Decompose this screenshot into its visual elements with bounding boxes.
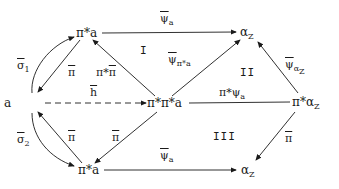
- sigma-glyph: σ: [17, 59, 25, 72]
- label-pi-bar-lower-left: π: [68, 132, 75, 143]
- node-pi-star-alpha-z: π*αZ: [292, 96, 320, 111]
- pi-glyph: π: [68, 131, 75, 144]
- label-pi-star-psi-a: π*ψa: [219, 87, 245, 101]
- pi-star-psi-glyph: π*ψ: [219, 86, 240, 99]
- region-label-ii: II: [240, 66, 255, 79]
- psi-sub: a: [240, 92, 245, 101]
- pi-glyph: π: [112, 131, 119, 144]
- node-alpha-z-bottom: αZ: [241, 164, 255, 179]
- label-h-bar: h: [90, 87, 97, 98]
- node-pi-star-pi-star-a: π*π*a: [147, 97, 182, 109]
- label-sigma-2: σ2: [17, 134, 30, 148]
- label-pi-star-pi-bar: π*π: [96, 67, 116, 78]
- psi-sub: a: [169, 155, 174, 164]
- psi-glyph: ψ: [168, 53, 177, 66]
- alpha-base: α: [240, 25, 248, 39]
- node-a: a: [4, 97, 11, 109]
- label-psi-pi-star-a: ψπ*a: [168, 54, 191, 68]
- psi-glyph: ψ: [285, 58, 294, 71]
- h-glyph: h: [90, 86, 97, 99]
- pi-star-alpha-base: π*α: [292, 95, 314, 109]
- alpha-sub: Z: [249, 170, 255, 179]
- region-label-iii: III: [213, 130, 236, 143]
- label-sigma-1: σ1: [17, 60, 30, 74]
- pi-star-prefix: π*: [96, 66, 109, 79]
- psi-glyph: ψ: [160, 149, 169, 162]
- psi-glyph: ψ: [160, 12, 169, 25]
- sigma-sub: 1: [25, 65, 30, 74]
- label-psi-a-bottom: ψa: [160, 150, 173, 164]
- label-psi-a-top: ψa: [160, 13, 173, 27]
- psi-sub: αZ: [294, 64, 305, 73]
- pi-glyph: π: [68, 66, 75, 79]
- pi-bar-glyph: π: [109, 66, 116, 79]
- alpha-base: α: [241, 163, 249, 177]
- psi-sub: a: [169, 18, 174, 27]
- node-pi-star-a-bottom: π*a: [78, 164, 99, 176]
- psi-sub: π*a: [177, 59, 191, 68]
- sigma-glyph: σ: [17, 133, 25, 146]
- pi-star-alpha-sub: Z: [314, 102, 320, 111]
- alpha-sub: Z: [248, 32, 254, 41]
- label-psi-alpha-z: ψαZ: [285, 59, 305, 76]
- region-label-i: I: [140, 44, 148, 57]
- label-pi-bar-right: π: [285, 133, 292, 144]
- label-pi-bar-lower-center: π: [112, 132, 119, 143]
- node-pi-star-a-top: π*a: [76, 27, 97, 39]
- label-pi-bar-upper: π: [68, 67, 75, 78]
- sigma-sub: 2: [25, 139, 30, 148]
- pi-glyph: π: [285, 132, 292, 145]
- node-alpha-z-top: αZ: [240, 26, 254, 41]
- z-subsub: Z: [299, 67, 305, 76]
